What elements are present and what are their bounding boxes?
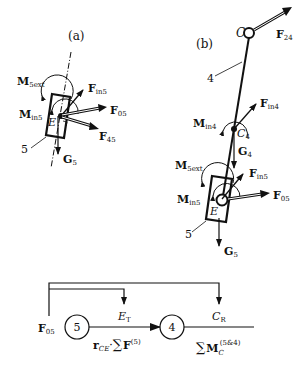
label-fin5: Fin5 bbox=[249, 167, 268, 181]
label-et: ET bbox=[117, 310, 131, 324]
label-m5ext: M5ext bbox=[175, 159, 203, 173]
panel-a-label: (a) bbox=[68, 29, 85, 43]
label-f24: F24 bbox=[276, 28, 293, 42]
node-4-label: 4 bbox=[169, 321, 176, 334]
panel-b-label: (b) bbox=[196, 37, 213, 51]
label-link-4: 4 bbox=[207, 72, 214, 85]
tap-line-et bbox=[49, 289, 124, 304]
label-g4: G4 bbox=[238, 145, 252, 159]
label-min5: Min5 bbox=[19, 108, 42, 122]
node-5-label: 5 bbox=[74, 321, 81, 334]
panel-b: (b) bbox=[175, 7, 293, 259]
joint-e bbox=[217, 195, 228, 206]
leader-5 bbox=[31, 137, 46, 148]
label-edge2: ∑MC(5&4) bbox=[196, 339, 241, 357]
f05-arrow-inner bbox=[228, 194, 262, 199]
label-g5: G5 bbox=[63, 153, 77, 167]
label-fin5: Fin5 bbox=[88, 82, 107, 96]
label-m5ext: M5ext bbox=[17, 75, 45, 89]
leader-4 bbox=[215, 62, 242, 76]
panel-a: (a) M5ext Min5 Fin5 F05 F45 G5 bbox=[17, 29, 127, 168]
label-f45: F45 bbox=[99, 130, 116, 144]
label-f05: F05 bbox=[273, 189, 290, 203]
label-point-e: E bbox=[209, 205, 218, 218]
label-f05-input: F05 bbox=[38, 322, 55, 336]
kinematic-diagram: (a) M5ext Min5 Fin5 F05 F45 G5 bbox=[0, 0, 303, 375]
label-point-c4: C4 bbox=[237, 127, 250, 141]
label-edge1: rCE·∑F(5) bbox=[93, 337, 141, 353]
label-f05: F05 bbox=[110, 104, 127, 118]
label-min5: Min5 bbox=[177, 193, 200, 207]
label-point-c: C bbox=[236, 26, 245, 40]
flow-diagram: 5 4 F05 ET CR rCE·∑F(5) ∑MC(5&4) bbox=[38, 283, 254, 357]
label-fin4: Fin4 bbox=[260, 97, 280, 111]
tap-line-cr bbox=[49, 283, 219, 316]
label-g5: G5 bbox=[224, 245, 238, 259]
label-body-5: 5 bbox=[21, 143, 28, 156]
label-min4: Min4 bbox=[193, 117, 217, 131]
f45-arrowhead bbox=[89, 122, 99, 130]
f05-arrowhead bbox=[260, 190, 270, 198]
label-point-e: E bbox=[47, 116, 56, 129]
label-body-5: 5 bbox=[185, 228, 192, 241]
label-cr: CR bbox=[212, 310, 226, 324]
leader-5 bbox=[192, 221, 206, 232]
f05-arrowhead bbox=[98, 104, 107, 112]
joint-c bbox=[244, 28, 254, 38]
